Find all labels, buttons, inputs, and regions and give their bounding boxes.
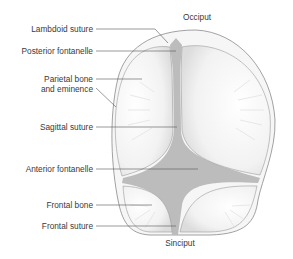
label-parietal-bone: Parietal bone: [44, 74, 93, 84]
label-frontal-suture: Frontal suture: [42, 221, 93, 231]
label-parietal-eminence: and eminence: [41, 84, 93, 94]
label-frontal-bone: Frontal bone: [46, 200, 93, 210]
label-occiput: Occiput: [183, 12, 211, 22]
label-posterior-fontanelle: Posterior fontanelle: [22, 46, 94, 56]
label-sagittal-suture: Sagittal suture: [40, 122, 93, 132]
label-anterior-fontanelle: Anterior fontanelle: [26, 164, 93, 174]
leader-eminence: [96, 88, 116, 107]
label-lambdoid-suture: Lambdoid suture: [31, 24, 93, 34]
label-sinciput: Sinciput: [165, 238, 195, 248]
